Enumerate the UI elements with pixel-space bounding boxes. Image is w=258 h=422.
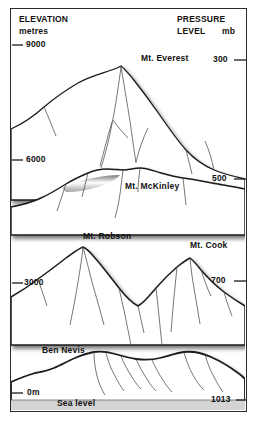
peak-label-mt-cook: Mt. Cook <box>190 240 227 250</box>
sea-level-band <box>11 400 245 410</box>
axis-label-left-6000: 6000 <box>26 154 46 164</box>
axis-label-right-500: 500 <box>212 173 227 183</box>
axis-label-right-300: 300 <box>213 54 228 64</box>
sea-level-label: Sea level <box>57 398 95 408</box>
diagram-canvas: ELEVATION metres PRESSURE LEVEL mb 9000 … <box>0 0 258 422</box>
axis-label-right-1013: 1013 <box>211 394 231 404</box>
pressure-axis-unit: mb <box>222 26 235 37</box>
peak-label-mt-robson: Mt. Robson <box>83 231 131 241</box>
elevation-axis-title: ELEVATION <box>19 14 68 25</box>
axis-label-left-9000: 9000 <box>26 39 46 49</box>
pressure-axis-subtitle: LEVEL <box>177 26 205 37</box>
peak-label-mt-mckinley: Mt. McKinley <box>125 181 179 191</box>
peak-label-ben-nevis: Ben Nevis <box>42 345 85 355</box>
ben-nevis-range <box>11 352 245 402</box>
peak-label-mt-everest: Mt. Everest <box>141 53 189 63</box>
axis-label-left-0m: 0m <box>27 387 40 397</box>
pressure-axis-title: PRESSURE <box>177 14 225 25</box>
axis-label-right-700: 700 <box>211 275 226 285</box>
axis-label-left-3000: 3000 <box>24 277 44 287</box>
elevation-axis-unit: metres <box>19 26 48 37</box>
robson-cook-range <box>11 247 245 345</box>
